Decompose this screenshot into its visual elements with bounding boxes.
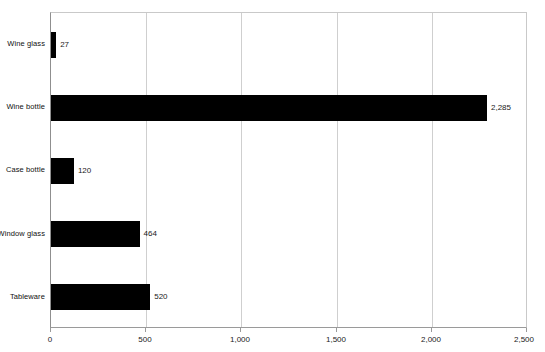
bar-case-bottle	[51, 158, 74, 184]
bar-wine-glass	[51, 32, 56, 58]
bar-value-wine-bottle: 2,285	[491, 104, 511, 112]
bar-value-tableware: 520	[154, 293, 167, 301]
x-tick-2500	[526, 328, 527, 332]
x-tick-1500	[336, 328, 337, 332]
bar-row-wine-bottle: 2,285	[51, 76, 526, 139]
x-tick-label-1000: 1,000	[230, 335, 250, 344]
y-axis-category-labels: Wine glass Wine bottle Case bottle Windo…	[0, 12, 48, 328]
x-tick-label-500: 500	[138, 335, 151, 344]
x-tick-label-2500: 2,500	[514, 335, 534, 344]
bar-wine-bottle	[51, 95, 487, 121]
x-tick-500	[145, 328, 146, 332]
x-axis: 0 500 1,000 1,500 2,000 2,500	[50, 328, 527, 352]
bar-row-case-bottle: 120	[51, 139, 526, 202]
bar-value-window-glass: 464	[144, 230, 157, 238]
y-axis-label-case-bottle: Case bottle	[6, 138, 45, 201]
bar-row-tableware: 520	[51, 266, 526, 329]
bar-row-wine-glass: 27	[51, 13, 526, 76]
bar-tableware	[51, 284, 150, 310]
plot-area: 27 2,285 120 464	[50, 12, 527, 328]
y-axis-label-tableware: Tableware	[10, 265, 45, 328]
bar-window-glass	[51, 221, 140, 247]
bar-value-case-bottle: 120	[78, 167, 91, 175]
x-tick-0	[50, 328, 51, 332]
bar-value-wine-glass: 27	[60, 41, 69, 49]
x-tick-1000	[240, 328, 241, 332]
y-axis-label-wine-bottle: Wine bottle	[6, 75, 45, 138]
x-tick-2000	[431, 328, 432, 332]
bar-chart: Wine glass Wine bottle Case bottle Windo…	[0, 0, 545, 352]
x-tick-label-1500: 1,500	[326, 335, 346, 344]
x-tick-label-2000: 2,000	[421, 335, 441, 344]
x-tick-label-0: 0	[48, 335, 52, 344]
bar-rows: 27 2,285 120 464	[51, 13, 526, 327]
bar-row-window-glass: 464	[51, 203, 526, 266]
y-axis-label-window-glass: Window glass	[0, 202, 45, 265]
y-axis-label-wine-glass: Wine glass	[7, 12, 45, 75]
